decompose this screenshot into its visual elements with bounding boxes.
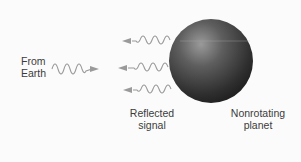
label-from-earth: From Earth bbox=[21, 55, 46, 79]
arrow-left-icon bbox=[122, 38, 131, 44]
arrow-left-icon bbox=[118, 65, 127, 71]
label-line: planet bbox=[228, 119, 288, 131]
label-line: Earth bbox=[21, 67, 46, 79]
diagram-canvas bbox=[0, 0, 301, 162]
label-nonrotating-planet: Nonrotating planet bbox=[228, 107, 288, 131]
arrow-left-icon bbox=[123, 87, 132, 93]
reflected-signal-wave-bottom bbox=[123, 85, 171, 93]
planet-sphere bbox=[169, 19, 253, 103]
reflected-signal-wave-top bbox=[122, 36, 170, 44]
arrow-right-icon bbox=[90, 66, 99, 72]
label-line: From bbox=[21, 55, 46, 67]
reflected-signal-wave-middle bbox=[118, 63, 168, 71]
label-line: Reflected bbox=[127, 107, 177, 119]
label-reflected-signal: Reflected signal bbox=[127, 107, 177, 131]
label-line: signal bbox=[127, 119, 177, 131]
incoming-signal-wave bbox=[52, 64, 99, 74]
label-line: Nonrotating bbox=[228, 107, 288, 119]
